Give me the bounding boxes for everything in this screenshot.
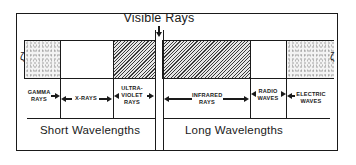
gamma-arrow-head-icon (55, 93, 60, 99)
uv-arrow-right-head-icon (149, 93, 154, 99)
short-wavelengths-label: Short Wavelengths (40, 124, 140, 136)
infrared-arrow-right (223, 98, 245, 100)
short-underline (78, 150, 155, 151)
long-wavelengths-label: Long Wavelengths (185, 124, 283, 136)
band-gamma (24, 40, 61, 79)
label-electric: ELECTRIC WAVES (294, 91, 328, 105)
visible-strip-right-edge (163, 30, 164, 151)
band-infrared (163, 40, 250, 79)
divider-infrared-radio (250, 79, 251, 118)
band-ultraviolet (113, 40, 155, 79)
visible-rays-title: Visible Rays (118, 11, 200, 25)
radio-arrow-right-head-icon (281, 91, 286, 97)
label-ultraviolet: ULTRA- VIOLET RAYS (117, 85, 147, 106)
label-infrared: INFRARED RAYS (192, 92, 222, 106)
label-radio: RADIO WAVES (255, 88, 281, 102)
label-row-bottom-left (27, 118, 155, 119)
band-visible-strip (155, 40, 163, 79)
visible-strip-left-edge (155, 30, 156, 151)
band-xray (60, 40, 114, 79)
long-underline (163, 150, 242, 151)
visible-rays-arrow-icon (156, 26, 162, 38)
xray-arrow-left (65, 98, 72, 100)
infrared-arrow-left (168, 98, 192, 100)
label-row-bottom-right (163, 118, 330, 119)
infrared-arrow-right-head-icon (244, 96, 249, 102)
label-xray: X-RAYS (72, 95, 100, 102)
band-radio (250, 40, 286, 79)
break-mark-left-icon: ζ (20, 52, 24, 62)
xray-arrow-right-head-icon (107, 96, 112, 102)
break-mark-right-icon: ζ (330, 52, 334, 62)
band-electric (286, 40, 334, 79)
